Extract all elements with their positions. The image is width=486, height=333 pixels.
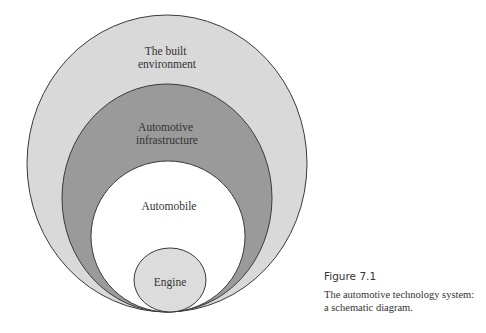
automobile-label: Automobile: [142, 200, 197, 212]
figure-number: Figure 7.1: [324, 270, 484, 282]
automotive-infrastructure-label: Automotive infrastructure: [136, 121, 198, 146]
engine-label: Engine: [154, 276, 187, 289]
caption-line-2: a schematic diagram.: [324, 301, 484, 314]
nested-systems-diagram: The built environment Automotive infrast…: [0, 0, 320, 333]
figure-caption: Figure 7.1 The automotive technology sys…: [324, 270, 484, 314]
built-environment-label: The built environment: [138, 45, 197, 70]
caption-line-1: The automotive technology system:: [324, 288, 484, 301]
